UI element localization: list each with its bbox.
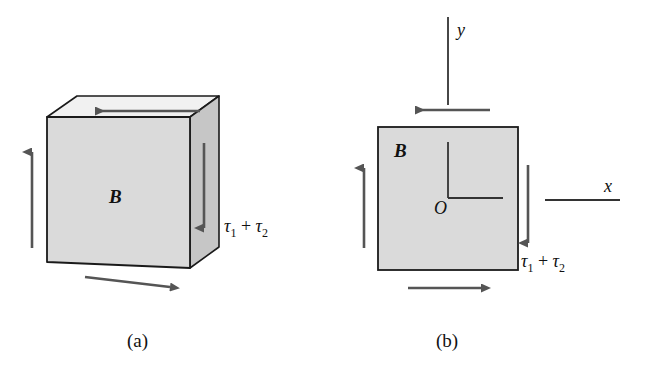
panel-a-graphics <box>0 0 645 368</box>
figure-canvas: B τ1 + τ2 (a) B O y x τ1 + τ2 (b) <box>0 0 645 368</box>
panel-a-body-label: B <box>109 186 122 208</box>
axis-y-label: y <box>457 20 465 41</box>
plus-sign-a: + <box>241 216 251 236</box>
plus-sign-b: + <box>538 251 548 271</box>
arrow-bottom-face-shear-right <box>85 277 170 287</box>
panel-b-stress-label: τ1 + τ2 <box>521 251 565 276</box>
panel-a-caption: (a) <box>127 330 148 352</box>
tau-subscript-4: 2 <box>559 261 565 275</box>
panel-b-body-label: B <box>394 140 407 162</box>
origin-label: O <box>434 198 447 219</box>
tau-subscript-1: 1 <box>230 226 236 240</box>
panel-a-stress-label: τ1 + τ2 <box>224 216 268 241</box>
panel-b-caption: (b) <box>436 330 458 352</box>
tau-subscript-2: 2 <box>262 226 268 240</box>
tau-subscript-3: 1 <box>527 261 533 275</box>
axis-x-label: x <box>604 176 612 197</box>
